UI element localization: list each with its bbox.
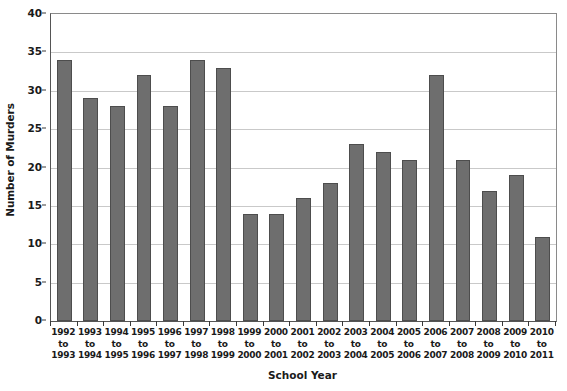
y-axis-tick-mark <box>42 243 46 244</box>
x-axis-tick-label-line: 2004 <box>342 350 369 362</box>
y-axis-tick-label: 20 <box>27 161 42 173</box>
y-axis-tick-label: 15 <box>27 199 42 211</box>
bar-slot <box>503 14 530 321</box>
x-axis-tick-label: 1997to1998 <box>183 327 210 367</box>
y-axis-tick-label: 10 <box>27 237 42 249</box>
x-axis-tick-label-line: 2005 <box>369 350 396 362</box>
x-axis-tick-mark <box>209 321 210 326</box>
y-axis-tick-mark <box>42 128 46 129</box>
x-axis-tick-label: 2009to2010 <box>502 327 529 367</box>
bar-slot <box>157 14 184 321</box>
bar-slot <box>104 14 131 321</box>
x-axis-tick-label: 1998to1999 <box>209 327 236 367</box>
x-axis-tick-mark <box>449 321 450 326</box>
bar <box>163 106 178 321</box>
x-axis-tick-label-line: 2011 <box>528 350 555 362</box>
bar <box>190 60 205 321</box>
x-axis-tick-label-line: 2003 <box>342 327 369 339</box>
x-axis-tick-label-line: to <box>449 339 476 351</box>
bar-slot <box>51 14 78 321</box>
bar-slot <box>476 14 503 321</box>
x-axis-tick-mark <box>502 321 503 326</box>
x-axis-tick-label: 1996to1997 <box>156 327 183 367</box>
x-axis-tick-mark <box>77 321 78 326</box>
bar <box>323 183 338 321</box>
x-axis-tick-label-line: 2009 <box>502 327 529 339</box>
x-axis-tick-label-line: to <box>475 339 502 351</box>
bar-slot <box>317 14 344 321</box>
x-axis-tick-label: 2008to2009 <box>475 327 502 367</box>
x-axis-tick-label: 1995to1996 <box>130 327 157 367</box>
x-axis-tick-mark <box>369 321 370 326</box>
y-axis-tick-mark <box>42 13 46 14</box>
y-axis-tick-mark <box>42 89 46 90</box>
bar <box>509 175 524 321</box>
x-axis-tick-label-line: 2003 <box>316 350 343 362</box>
x-axis-tick-label-line: to <box>183 339 210 351</box>
x-axis-tick-label-line: to <box>103 339 130 351</box>
x-axis-tick-mark <box>103 321 104 326</box>
bar <box>110 106 125 321</box>
y-axis-title-label: Number of Murders <box>4 103 16 217</box>
bar <box>216 68 231 321</box>
x-axis-tick-label-line: to <box>263 339 290 351</box>
x-axis-tick-mark <box>528 321 529 326</box>
x-axis-tick-label-line: to <box>236 339 263 351</box>
bar-slot <box>264 14 291 321</box>
bar <box>535 237 550 321</box>
bar-slot <box>210 14 237 321</box>
x-axis-tick-label-line: to <box>289 339 316 351</box>
bar-slot <box>529 14 556 321</box>
x-axis-tick-label-line: 1998 <box>209 327 236 339</box>
x-axis-tick-label-line: 2006 <box>396 350 423 362</box>
y-axis-tick-mark <box>42 166 46 167</box>
x-axis-tick-mark <box>342 321 343 326</box>
bar <box>57 60 72 321</box>
y-axis-tick-mark <box>42 320 46 321</box>
bar-slot <box>237 14 264 321</box>
x-axis-tick-label: 1999to2000 <box>236 327 263 367</box>
x-axis-tick-mark <box>236 321 237 326</box>
y-axis-title: Number of Murders <box>0 0 20 320</box>
x-axis-tick-label-line: 2008 <box>475 327 502 339</box>
x-axis-tick-label-line: to <box>130 339 157 351</box>
x-axis-tick-label-line: 1995 <box>103 350 130 362</box>
x-axis-tick-label-line: 1992 <box>50 327 77 339</box>
x-axis-tick-mark <box>183 321 184 326</box>
x-axis-tick-label-line: 1999 <box>209 350 236 362</box>
bar-slot <box>78 14 105 321</box>
x-axis-tick-mark <box>316 321 317 326</box>
x-axis-tick-label-line: 1999 <box>236 327 263 339</box>
x-axis-tick-label-line: 2000 <box>236 350 263 362</box>
x-axis-tick-label-line: 2006 <box>422 327 449 339</box>
x-axis-tick-label-line: 2004 <box>369 327 396 339</box>
x-axis-tick-label-line: 2007 <box>449 327 476 339</box>
x-axis-tick-label-line: 1996 <box>156 327 183 339</box>
x-axis-tick-label-line: 2002 <box>289 350 316 362</box>
bar-slot <box>397 14 424 321</box>
bar <box>243 214 258 321</box>
x-axis-tick-label-line: 1993 <box>77 327 104 339</box>
bar-slot <box>184 14 211 321</box>
x-axis-tick-label-line: to <box>528 339 555 351</box>
x-axis-tick-label: 2001to2002 <box>289 327 316 367</box>
y-axis-tick-label: 35 <box>27 45 42 57</box>
x-axis-tick-label-line: 1995 <box>130 327 157 339</box>
x-axis-tick-label-line: 1996 <box>130 350 157 362</box>
x-axis-tick-mark <box>289 321 290 326</box>
x-axis-tick-label-line: 2007 <box>422 350 449 362</box>
bar <box>456 160 471 321</box>
bar <box>376 152 391 321</box>
x-axis-tick-label-line: 2008 <box>449 350 476 362</box>
y-axis-tick-label: 0 <box>35 314 42 326</box>
bar <box>349 144 364 321</box>
x-axis-tick-mark <box>555 321 556 326</box>
x-axis-tick-mark <box>396 321 397 326</box>
x-axis-tick-label-line: 2001 <box>289 327 316 339</box>
x-axis-tick-label-line: 1997 <box>156 350 183 362</box>
x-axis-tick-label-line: 2000 <box>263 327 290 339</box>
x-axis-tick-label-line: 2001 <box>263 350 290 362</box>
x-axis-tick-label: 2004to2005 <box>369 327 396 367</box>
y-axis-tick-label: 25 <box>27 122 42 134</box>
bars-layer <box>51 14 556 321</box>
